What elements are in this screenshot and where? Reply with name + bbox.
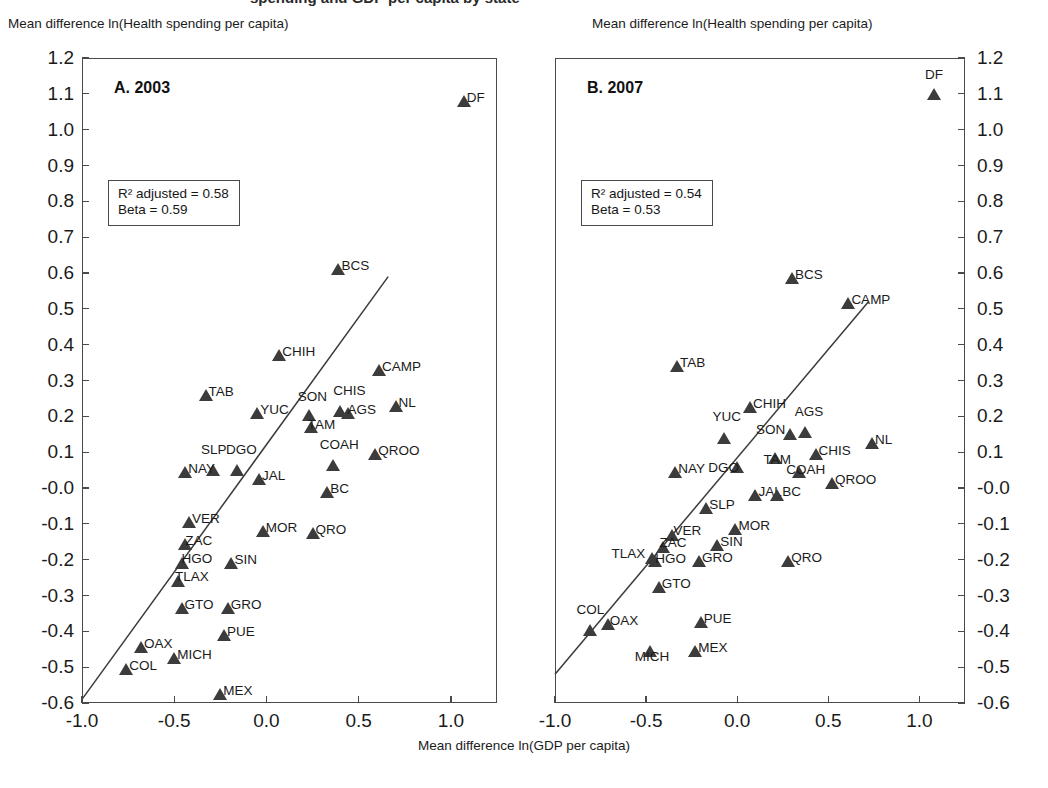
data-point-label: OAX xyxy=(610,614,639,628)
x-axis-label: 1.0 xyxy=(438,711,464,730)
data-point-label: NAY xyxy=(188,462,215,476)
y-axis-label: 0.9 xyxy=(977,156,1031,175)
y-axis-tick xyxy=(958,308,965,309)
y-axis-label: 0.4 xyxy=(20,335,74,354)
y-axis-label: 0.8 xyxy=(20,191,74,210)
beta-a: Beta = 0.59 xyxy=(118,202,229,218)
x-axis-tick xyxy=(81,696,82,703)
data-point-marker[interactable] xyxy=(717,432,731,444)
y-axis-label: -0.2 xyxy=(977,550,1031,569)
data-point-label: YUC xyxy=(260,403,289,417)
data-point-label: COAH xyxy=(320,438,359,452)
r2-adjusted-a: R² adjusted = 0.58 xyxy=(118,186,229,202)
y-axis-tick xyxy=(82,487,89,488)
y-axis-tick xyxy=(958,57,965,58)
y-axis-tick xyxy=(82,93,89,94)
data-point-label: DF xyxy=(467,91,485,105)
data-point-label: GRO xyxy=(702,551,733,565)
y-axis-tick xyxy=(82,667,89,668)
data-point-label: PUE xyxy=(704,612,732,626)
y-axis-tick xyxy=(82,452,89,453)
y-axis-label: 1.2 xyxy=(20,48,74,67)
data-point-label: GTO xyxy=(662,577,691,591)
data-point-label: QROO xyxy=(378,444,419,458)
data-point-label: MICH xyxy=(635,650,670,664)
data-point-label: CHIH xyxy=(282,345,315,359)
y-axis-tick xyxy=(958,201,965,202)
y-axis-tick xyxy=(958,93,965,94)
data-point-label: VER xyxy=(192,512,220,526)
y-axis-label: 0.3 xyxy=(20,371,74,390)
data-point-marker[interactable] xyxy=(326,459,340,471)
panel-label-b: B. 2007 xyxy=(587,79,643,97)
data-point-label: BCS xyxy=(341,259,369,273)
data-point-label: HGO xyxy=(655,552,686,566)
data-point-label: MEX xyxy=(223,684,252,698)
y-axis-tick xyxy=(958,559,965,560)
data-point-label: COAH xyxy=(786,463,825,477)
data-point-label: DF xyxy=(925,68,943,82)
data-point-label: PUE xyxy=(227,625,255,639)
data-point-label: YUC xyxy=(712,410,741,424)
y-axis-label: 0.7 xyxy=(20,227,74,246)
data-point-label: CHIS xyxy=(819,444,851,458)
data-point-label: SLP xyxy=(709,498,735,512)
data-point-label: CAMP xyxy=(382,360,421,374)
data-point-label: ZAC xyxy=(185,534,212,548)
y-axis-label: 0.3 xyxy=(977,371,1031,390)
y-axis-label: -0.1 xyxy=(20,514,74,533)
y-axis-label: 1.1 xyxy=(977,84,1031,103)
data-point-marker[interactable] xyxy=(583,624,597,636)
y-axis-title-left: Mean difference ln(Health spending per c… xyxy=(8,16,288,31)
data-point-label: GRO xyxy=(231,598,262,612)
y-axis-label: 0.1 xyxy=(20,442,74,461)
data-point-label: COL xyxy=(577,603,605,617)
data-point-marker[interactable] xyxy=(798,426,812,438)
data-point-label: HGO xyxy=(182,552,213,566)
y-axis-tick xyxy=(82,523,89,524)
data-point-label: JAL xyxy=(262,469,285,483)
y-axis-label: 0.4 xyxy=(977,335,1031,354)
cutoff-header-text: spending and GDP per capita by state xyxy=(250,0,520,6)
x-axis-tick xyxy=(174,696,175,703)
data-point-label: SIN xyxy=(234,553,257,567)
y-axis-label: 0.7 xyxy=(977,227,1031,246)
data-point-label: DGO xyxy=(226,443,257,457)
y-axis-tick xyxy=(958,129,965,130)
y-axis-tick xyxy=(958,487,965,488)
panel-2003: A. 2003 R² adjusted = 0.58 Beta = 0.59 1… xyxy=(82,58,497,703)
y-axis-label: 1.1 xyxy=(20,84,74,103)
y-axis-label: -0.6 xyxy=(977,693,1031,712)
y-axis-label: -0.0 xyxy=(977,478,1031,497)
y-axis-label: -0.3 xyxy=(977,586,1031,605)
x-axis-tick xyxy=(266,696,267,703)
data-point-marker[interactable] xyxy=(927,88,941,100)
y-axis-tick xyxy=(82,237,89,238)
data-point-marker[interactable] xyxy=(230,464,244,476)
stats-box-a: R² adjusted = 0.58 Beta = 0.59 xyxy=(108,180,240,226)
y-axis-tick xyxy=(958,667,965,668)
y-axis-tick xyxy=(958,631,965,632)
y-axis-tick xyxy=(958,595,965,596)
y-axis-tick xyxy=(958,344,965,345)
y-axis-label: 0.1 xyxy=(977,442,1031,461)
x-axis-label: 0.5 xyxy=(345,711,371,730)
y-axis-label: -0.5 xyxy=(977,657,1031,676)
data-point-label: QROO xyxy=(835,473,876,487)
plot-canvas-b xyxy=(555,58,965,703)
x-axis-label: -0.5 xyxy=(630,711,663,730)
y-axis-label: 0.9 xyxy=(20,156,74,175)
data-point-label: AGS xyxy=(348,403,377,417)
data-point-label: TLAX xyxy=(612,547,646,561)
data-point-label: QRO xyxy=(791,551,822,565)
data-point-label: TAB xyxy=(680,356,705,370)
y-axis-label: 1.0 xyxy=(977,120,1031,139)
data-point-label: MEX xyxy=(698,641,727,655)
data-point-label: AGS xyxy=(795,405,824,419)
data-point-label: CHIS xyxy=(333,384,365,398)
y-axis-label: -0.5 xyxy=(20,657,74,676)
data-point-label: CAMP xyxy=(851,293,890,307)
y-axis-label: -0.1 xyxy=(977,514,1031,533)
data-point-label: COL xyxy=(129,659,157,673)
x-axis-label: 0.0 xyxy=(253,711,279,730)
